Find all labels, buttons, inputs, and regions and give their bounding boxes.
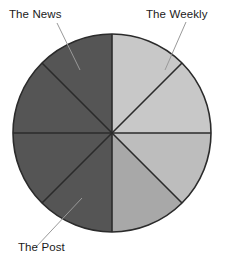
label-bottom-clipped: The Post — [18, 241, 65, 254]
label-the-news: The News — [9, 8, 62, 21]
pie-divider-group — [13, 34, 211, 232]
label-the-weekly: The Weekly — [146, 8, 208, 21]
